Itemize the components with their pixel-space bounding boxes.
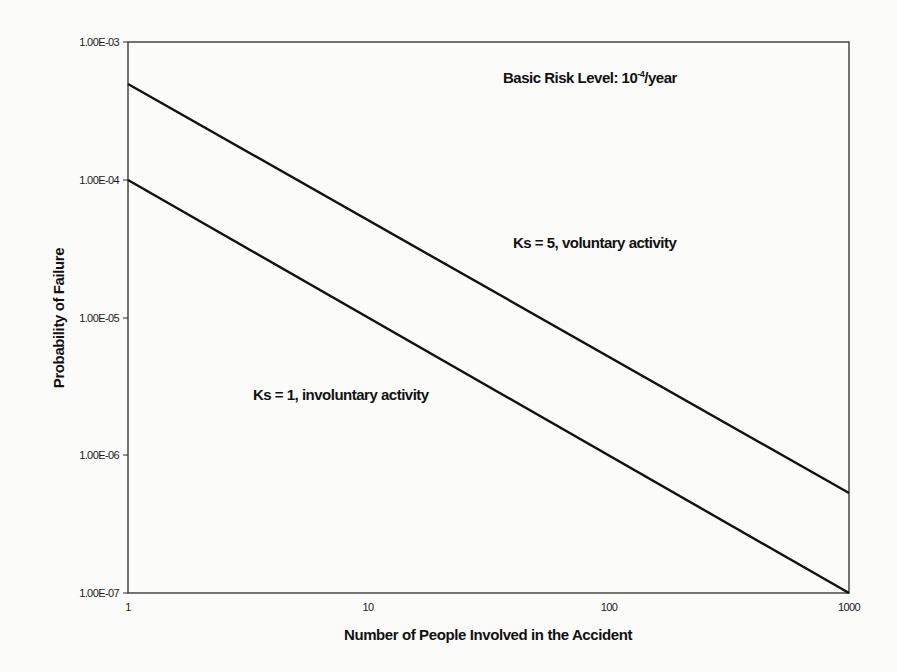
risk-chart: 1.00E-03 1.00E-04 1.00E-05 1.00E-06 1.00… [0, 0, 897, 672]
series-label-involuntary: Ks = 1, involuntary activity [253, 386, 430, 403]
y-axis-title: Probability of Failure [50, 248, 67, 388]
x-tick-label: 100 [601, 601, 618, 613]
x-tick-label: 1000 [838, 601, 861, 613]
y-tick-label: 1.00E-03 [79, 36, 119, 48]
series-line-involuntary [128, 180, 849, 593]
basic-risk-annotation: Basic Risk Level: 10-4/year [503, 69, 677, 86]
y-tick-label: 1.00E-05 [79, 312, 119, 324]
x-tick-label: 10 [362, 601, 374, 613]
y-tick-label: 1.00E-06 [79, 449, 119, 461]
series-line-voluntary [128, 84, 849, 493]
x-tick-label: 1 [125, 601, 131, 613]
y-tick-marks [123, 42, 128, 593]
series-label-voluntary: Ks = 5, voluntary activity [513, 234, 677, 251]
y-tick-label: 1.00E-04 [79, 174, 119, 186]
plot-frame [128, 42, 849, 593]
x-axis-title: Number of People Involved in the Acciden… [344, 626, 632, 643]
y-tick-label: 1.00E-07 [79, 587, 119, 599]
